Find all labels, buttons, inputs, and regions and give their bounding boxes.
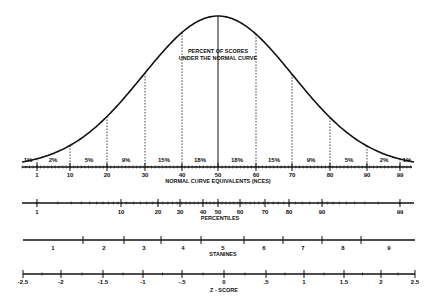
nce-axis-label: NORMAL CURVE EQUIVALENTS (NCES) — [165, 178, 271, 184]
stanine-label: 6 — [262, 245, 266, 251]
percent-label: 1% — [403, 157, 412, 163]
tick-label: 99 — [397, 209, 404, 215]
z-score-axis: -2.5-2-1.5-1-.50.511.522.5 — [18, 270, 420, 285]
tick-label: 1.5 — [340, 279, 349, 285]
tick-label: -.5 — [178, 279, 186, 285]
stanines-axis: 123456789 — [23, 236, 415, 251]
percentiles-axis-label: PERCENTILES — [201, 215, 240, 221]
tick-label: 99 — [397, 172, 404, 178]
stanine-label: 8 — [341, 245, 345, 251]
tick-label: 1 — [35, 209, 39, 215]
percent-label: 9% — [122, 157, 131, 163]
tick-label: 80 — [286, 209, 293, 215]
stanines-axis-label: STANINES — [209, 251, 237, 257]
percent-label: 9% — [307, 157, 316, 163]
tick-label: 30 — [142, 172, 149, 178]
tick-label: 10 — [118, 209, 125, 215]
tick-label: -2 — [58, 279, 64, 285]
stanine-label: 2 — [102, 245, 106, 251]
title-line-2: UNDER THE NORMAL CURVE — [179, 55, 258, 61]
tick-label: 70 — [289, 172, 296, 178]
tick-label: 90 — [319, 209, 326, 215]
tick-label: -2.5 — [18, 279, 29, 285]
stanine-label: 1 — [51, 245, 55, 251]
percentiles-axis: 110203040506070809099 — [22, 199, 414, 215]
percent-label: 15% — [158, 157, 171, 163]
tick-label: 90 — [364, 172, 371, 178]
z-score-axis-label: Z - SCORE — [210, 287, 238, 293]
stanine-label: 9 — [387, 245, 391, 251]
nce-axis: 110203040506070809099 — [22, 163, 412, 178]
tick-label: 10 — [67, 172, 74, 178]
segment-dividers — [37, 16, 400, 167]
percent-label: 15% — [268, 157, 281, 163]
tick-label: 70 — [262, 209, 269, 215]
tick-label: -1.5 — [98, 279, 109, 285]
stanine-label: 4 — [181, 245, 185, 251]
tick-label: 2.5 — [411, 279, 420, 285]
tick-label: -1 — [140, 279, 146, 285]
tick-label: 20 — [104, 172, 111, 178]
normal-curve-diagram: PERCENT OF SCORES UNDER THE NORMAL CURVE… — [0, 0, 435, 306]
tick-label: .5 — [263, 279, 269, 285]
percent-label: 5% — [85, 157, 94, 163]
stanine-label: 3 — [142, 245, 146, 251]
percent-label: 2% — [49, 157, 58, 163]
tick-label: 1 — [35, 172, 39, 178]
tick-label: 2 — [379, 279, 383, 285]
percent-label: 5% — [345, 157, 354, 163]
percent-label: 2% — [380, 157, 389, 163]
tick-label: 20 — [155, 209, 162, 215]
tick-label: 80 — [327, 172, 334, 178]
percent-label: 18% — [194, 157, 207, 163]
title-line-1: PERCENT OF SCORES — [188, 48, 249, 54]
percent-label: 18% — [231, 157, 244, 163]
tick-label: 0 — [222, 279, 226, 285]
tick-label: 1 — [302, 279, 306, 285]
stanine-label: 7 — [301, 245, 305, 251]
percent-label: 1% — [24, 157, 33, 163]
tick-label: 30 — [177, 209, 184, 215]
